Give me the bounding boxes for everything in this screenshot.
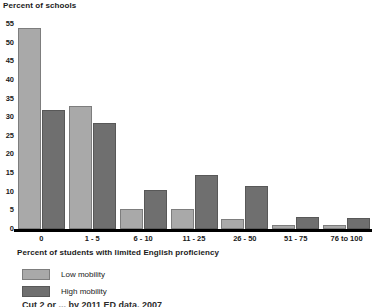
legend-label: High mobility xyxy=(61,287,107,296)
x-axis-tick-label: 11 - 25 xyxy=(183,234,206,243)
bar-low-mobility xyxy=(69,106,92,229)
y-axis-tick-label: 20 xyxy=(0,151,14,159)
legend-item: Low mobility xyxy=(22,267,107,281)
chart-legend: Low mobilityHigh mobility xyxy=(22,267,107,301)
legend-swatch-low-mobility xyxy=(22,269,50,280)
x-axis-title: Percent of students with limited English… xyxy=(17,248,219,257)
bar-low-mobility xyxy=(120,209,143,230)
bar-low-mobility xyxy=(171,209,194,229)
x-axis-tick-label: 76 to 100 xyxy=(331,234,363,243)
source-note: Cut 2 or ... by 2011 ED data, 2007 xyxy=(22,300,162,307)
bar-group xyxy=(221,24,268,229)
bar-low-mobility xyxy=(18,28,41,229)
y-axis-tick-label: 55 xyxy=(0,20,14,28)
y-axis-tick-label: 40 xyxy=(0,76,14,84)
bar-low-mobility xyxy=(272,225,295,229)
bar-high-mobility xyxy=(195,175,218,229)
bar-group xyxy=(69,24,116,229)
x-axis-tick-label: 1 - 5 xyxy=(85,234,100,243)
bar-low-mobility xyxy=(323,225,346,229)
y-axis-tick-label: 50 xyxy=(0,39,14,47)
legend-swatch-high-mobility xyxy=(22,286,50,297)
x-axis-tick-label: 51 - 75 xyxy=(284,234,307,243)
x-axis-tick-label: 0 xyxy=(39,234,43,243)
y-axis-title: Percent of schools xyxy=(3,1,76,10)
x-axis-tick-label: 6 - 10 xyxy=(134,234,153,243)
y-axis-tick-label: 15 xyxy=(0,169,14,177)
bar-group xyxy=(120,24,167,229)
bar-high-mobility xyxy=(296,217,319,229)
plot-area: 0510152025303540455055 xyxy=(16,24,372,229)
bar-group xyxy=(18,24,65,229)
bar-low-mobility xyxy=(221,219,244,229)
y-axis-tick-label: 25 xyxy=(0,132,14,140)
bar-high-mobility xyxy=(144,190,167,229)
legend-label: Low mobility xyxy=(61,270,105,279)
y-axis-tick-label: 10 xyxy=(0,188,14,196)
bar-high-mobility xyxy=(347,218,370,229)
bar-group xyxy=(171,24,218,229)
x-axis-baseline xyxy=(14,229,372,232)
chart-container: Percent of schools 051015202530354045505… xyxy=(0,0,378,307)
bar-high-mobility xyxy=(42,110,65,229)
y-axis-tick-label: 45 xyxy=(0,58,14,66)
bar-high-mobility xyxy=(245,186,268,229)
bar-group xyxy=(323,24,370,229)
y-axis-tick-label: 35 xyxy=(0,95,14,103)
bar-high-mobility xyxy=(93,123,116,229)
x-axis-tick-label: 26 - 50 xyxy=(233,234,256,243)
legend-item: High mobility xyxy=(22,284,107,298)
y-axis-tick-label: 0 xyxy=(0,225,14,233)
bar-group xyxy=(272,24,319,229)
y-axis-tick-label: 30 xyxy=(0,113,14,121)
y-axis-tick-label: 5 xyxy=(0,207,14,215)
